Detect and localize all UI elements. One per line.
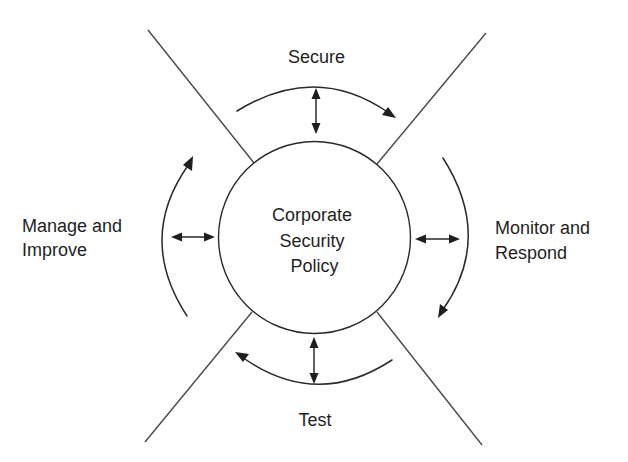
phase-label-monitor-line-1: Monitor and <box>495 218 590 238</box>
arrowhead-left-icon <box>415 235 426 244</box>
arrowhead-left-icon <box>171 233 182 242</box>
phase-label-test: Test <box>298 410 331 430</box>
security-wheel-diagram: Corporate Security Policy Secure Monitor… <box>0 0 628 462</box>
arrowhead-right-icon <box>204 233 215 242</box>
connector-monitor <box>415 235 460 244</box>
separator-bottom-right <box>377 312 482 445</box>
phase-label-manage-line-2: Improve <box>22 240 87 260</box>
center-label-line-2: Security <box>279 231 344 251</box>
center-label-line-1: Corporate <box>272 205 352 225</box>
phase-label-manage: Manage and Improve <box>22 216 127 260</box>
arrowhead-up-icon <box>312 88 321 99</box>
connector-test <box>310 337 319 384</box>
arrowhead-down-icon <box>312 123 321 134</box>
arrowhead-up-icon <box>310 337 319 348</box>
arrowhead-down-icon <box>310 373 319 384</box>
separator-top-right <box>377 33 486 164</box>
phase-label-monitor: Monitor and Respond <box>495 218 595 263</box>
phase-label-monitor-line-2: Respond <box>495 243 567 263</box>
phase-label-secure: Secure <box>288 47 345 67</box>
separator-bottom-left <box>145 312 252 442</box>
arrowhead-icon <box>382 107 396 118</box>
arrowhead-right-icon <box>449 235 460 244</box>
arrowhead-icon <box>183 156 193 171</box>
separator-top-left <box>148 30 254 163</box>
center-label: Corporate Security Policy <box>272 205 357 276</box>
phase-label-manage-line-1: Manage and <box>22 216 122 236</box>
connector-manage <box>171 233 215 242</box>
center-label-line-3: Policy <box>290 256 338 276</box>
arrowhead-icon <box>438 304 448 318</box>
connector-secure <box>312 88 321 134</box>
